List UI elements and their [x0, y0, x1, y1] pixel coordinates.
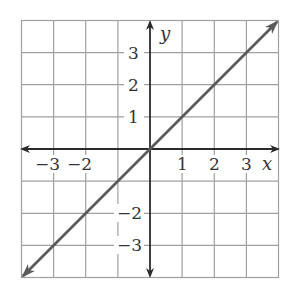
- y-tick-neg2: −2: [117, 203, 142, 223]
- x-tick-neg2: −2: [67, 154, 92, 174]
- x-tick-neg3: −3: [35, 154, 60, 174]
- x-axis-label: x: [262, 153, 272, 174]
- y-tick-neg3: −3: [117, 235, 142, 255]
- y-tick-2: 2: [128, 75, 139, 95]
- y-axis-label: y: [159, 23, 171, 44]
- coordinate-plane: 3 2 1 −2 −3 −3 −2 1 2 3 x y: [0, 0, 293, 285]
- y-tick-3: 3: [128, 43, 139, 63]
- x-tick-3: 3: [241, 154, 252, 174]
- y-tick-1: 1: [128, 107, 139, 127]
- x-tick-2: 2: [209, 154, 220, 174]
- x-tick-1: 1: [177, 154, 188, 174]
